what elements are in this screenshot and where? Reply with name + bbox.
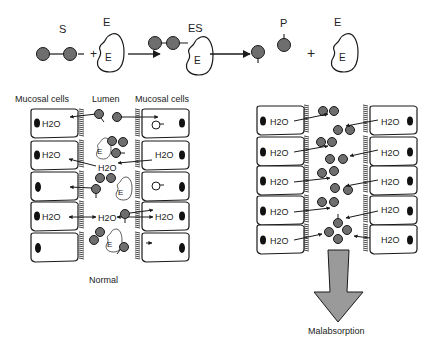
normal-caption: Normal [89,275,118,285]
enzyme-shape: E [98,34,125,72]
plus-sign: + [90,47,97,61]
enzyme-label: E [107,240,112,249]
water-label: H2O [381,205,400,215]
water-label: H2O [270,177,289,187]
water-label: H2O [270,148,289,158]
water-label: H2O [270,236,289,246]
malabsorption-arrow-icon [314,250,363,322]
water-label: H2O [381,117,400,127]
water-label: H2O [381,148,400,158]
right-mucosal-header: Mucosal cells [135,94,190,104]
enzyme-label: E [103,16,110,28]
enzyme-shape: E [332,34,359,72]
water-label: H2O [270,117,289,127]
water-label: H2O [381,235,400,245]
left-cell-column: H2O H2O H2O H2O H2O [257,105,309,254]
lumen-contents [294,107,378,244]
water-label: H2O [42,119,61,129]
enzyme-label: E [97,147,102,156]
enzyme-label: E [334,16,341,28]
lumen-header: Lumen [92,94,120,104]
water-label: H2O [98,213,117,223]
water-label: H2O [42,212,61,222]
left-cell-column: H2O H2O H2O [31,109,84,262]
water-label: H2O [98,163,117,173]
substrate-molecule [37,48,85,61]
water-label: H2O [42,150,61,160]
svg-text:E: E [194,55,201,66]
product-label: P [280,17,287,29]
right-cell-column: H2O H2O [135,109,189,262]
water-label: H2O [155,150,174,160]
water-label: H2O [270,207,289,217]
complex-label: ES [188,22,203,34]
reaction-equation: S + E E ES E [37,16,359,75]
plus-sign: + [307,45,315,61]
enzyme-substrate-complex: E [149,37,214,76]
malabsorption-panel: H2O H2O H2O H2O H2O H2O H2O H2O H2O H2O [257,105,417,336]
substrate-label: S [59,23,66,35]
right-cell-column: H2O H2O H2O H2O H2O [363,105,417,254]
svg-text:E: E [105,52,112,63]
water-label: H2O [155,212,174,222]
svg-text:E: E [339,52,346,63]
product-molecules [252,34,291,63]
normal-panel: Mucosal cells Lumen Mucosal cells H2O H2… [15,94,190,285]
water-label: H2O [381,177,400,187]
diagram-canvas: S + E E ES E [0,0,432,348]
enzyme-label: E [118,188,123,197]
left-mucosal-header: Mucosal cells [15,94,70,104]
malabsorption-caption: Malabsorption [308,326,365,336]
